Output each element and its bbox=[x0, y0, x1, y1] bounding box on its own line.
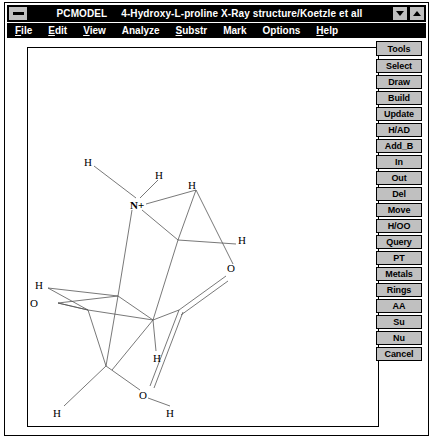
tool-button-out[interactable]: Out bbox=[376, 171, 422, 185]
tool-button-build[interactable]: Build bbox=[376, 91, 422, 105]
tool-button-add-b[interactable]: Add_B bbox=[376, 139, 422, 153]
menu-item-view-rest: iew bbox=[90, 25, 106, 36]
atom-label-h: H bbox=[53, 407, 61, 419]
tool-button-in[interactable]: In bbox=[376, 155, 422, 169]
tool-button-h-ad[interactable]: H/AD bbox=[376, 123, 422, 137]
molecule-canvas[interactable]: H H H N+ H O H O H O H H bbox=[27, 47, 379, 427]
menu-item-options[interactable]: Options bbox=[263, 25, 301, 36]
tool-button-metals[interactable]: Metals bbox=[376, 267, 422, 281]
atom-label-h: H bbox=[238, 234, 246, 246]
system-menu-icon[interactable] bbox=[8, 6, 28, 21]
title-bar: PCMODEL4-Hydroxy-L-proline X-Ray structu… bbox=[7, 5, 426, 22]
molecule-drawing: H H H N+ H O H O H O H H bbox=[28, 48, 378, 426]
system-menu-bar-glyph bbox=[13, 12, 24, 15]
menu-item-analyze[interactable]: Analyze bbox=[122, 25, 160, 36]
atom-label-h: H bbox=[155, 169, 163, 181]
atom-label-h: H bbox=[84, 156, 92, 168]
atom-label-n-plus: N+ bbox=[130, 199, 144, 211]
chevron-down-icon bbox=[396, 11, 404, 16]
atom-label-o: O bbox=[30, 297, 38, 309]
tool-button-cancel[interactable]: Cancel bbox=[376, 347, 422, 361]
menu-item-view[interactable]: View bbox=[83, 25, 106, 36]
menu-item-edit-rest: dit bbox=[55, 25, 67, 36]
menu-item-substr-rest: ubstr bbox=[182, 25, 207, 36]
menu-item-file-rest: ile bbox=[21, 25, 32, 36]
tool-button-nu[interactable]: Nu bbox=[376, 331, 422, 345]
tools-palette: Tools Select Draw Build Update H/AD Add_… bbox=[376, 41, 422, 363]
window-controls bbox=[391, 6, 425, 21]
minimize-button[interactable] bbox=[392, 6, 408, 21]
client-area: H H H N+ H O H O H O H H bbox=[7, 39, 426, 433]
tool-button-update[interactable]: Update bbox=[376, 107, 422, 121]
menu-item-substr[interactable]: Substr bbox=[176, 25, 208, 36]
menu-item-help-rest: elp bbox=[324, 25, 338, 36]
atom-label-h: H bbox=[35, 279, 43, 291]
atom-label-o: O bbox=[139, 389, 147, 401]
tool-button-draw[interactable]: Draw bbox=[376, 75, 422, 89]
menu-item-analyze-label: Analyze bbox=[122, 25, 160, 36]
maximize-button[interactable] bbox=[409, 6, 425, 21]
app-root: PCMODEL4-Hydroxy-L-proline X-Ray structu… bbox=[0, 0, 433, 440]
tool-button-rings[interactable]: Rings bbox=[376, 283, 422, 297]
pcmodel-window: PCMODEL4-Hydroxy-L-proline X-Ray structu… bbox=[4, 2, 429, 436]
chevron-up-icon bbox=[413, 11, 421, 16]
tool-button-query[interactable]: Query bbox=[376, 235, 422, 249]
tool-button-del[interactable]: Del bbox=[376, 187, 422, 201]
tool-button-h-oo[interactable]: H/OO bbox=[376, 219, 422, 233]
tool-button-su[interactable]: Su bbox=[376, 315, 422, 329]
menu-item-file[interactable]: File bbox=[15, 25, 32, 36]
molecule-atom-labels: H H H N+ H O H O H O H H bbox=[30, 156, 246, 419]
atom-label-o: O bbox=[227, 262, 235, 274]
title-document-name: 4-Hydroxy-L-proline X-Ray structure/Koet… bbox=[121, 8, 362, 19]
menu-item-mark[interactable]: Mark bbox=[223, 25, 246, 36]
menu-item-options-label: Options bbox=[263, 25, 301, 36]
window-title: PCMODEL4-Hydroxy-L-proline X-Ray structu… bbox=[28, 8, 391, 19]
tool-button-aa[interactable]: AA bbox=[376, 299, 422, 313]
menu-item-mark-label: Mark bbox=[223, 25, 246, 36]
atom-label-h: H bbox=[153, 352, 161, 364]
tool-button-move[interactable]: Move bbox=[376, 203, 422, 217]
menu-item-help[interactable]: Help bbox=[316, 25, 338, 36]
tool-button-pt[interactable]: PT bbox=[376, 251, 422, 265]
tools-palette-header: Tools bbox=[376, 41, 422, 56]
atom-label-h: H bbox=[188, 179, 196, 191]
title-app-name: PCMODEL bbox=[57, 8, 108, 19]
menu-bar: File Edit View Analyze Substr Mark Optio… bbox=[7, 23, 426, 38]
atom-label-h: H bbox=[166, 407, 174, 419]
tool-button-select[interactable]: Select bbox=[376, 59, 422, 73]
menu-item-edit[interactable]: Edit bbox=[48, 25, 67, 36]
